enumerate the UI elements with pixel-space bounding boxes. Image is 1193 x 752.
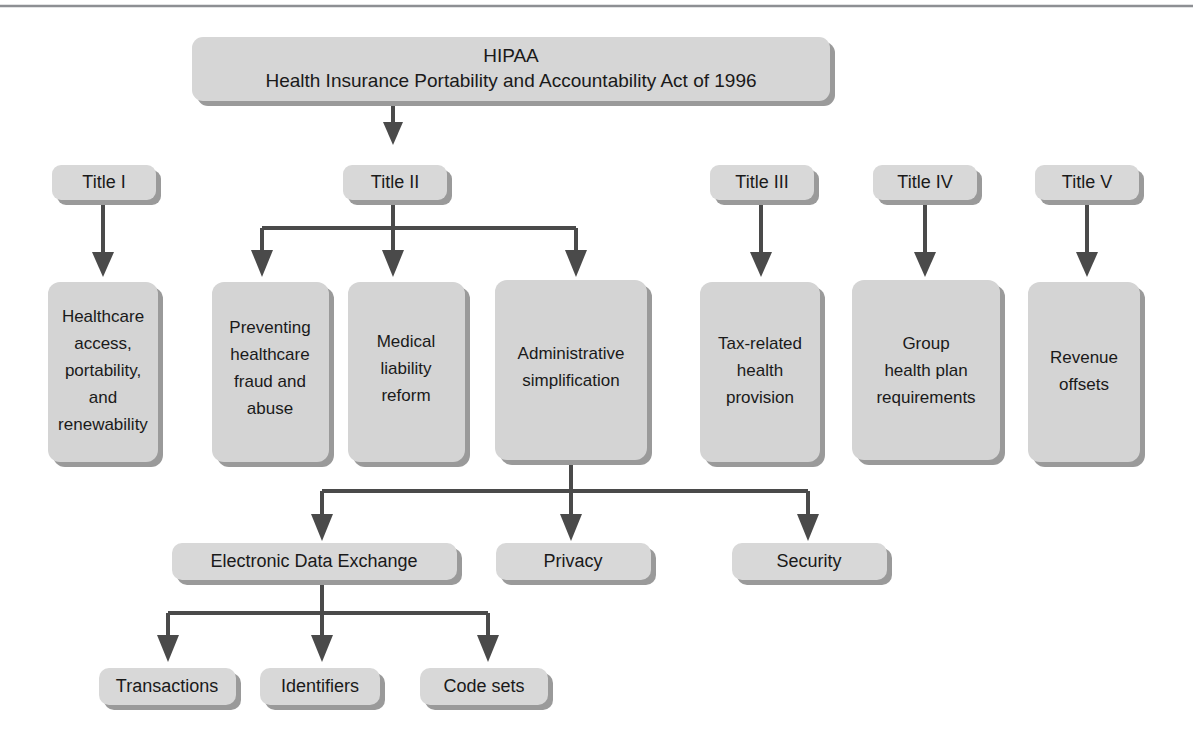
node-hipaa[interactable]: HIPAA Health Insurance Portability and A… [192, 37, 835, 106]
node-preventing-fraud-line-4: abuse [247, 399, 293, 418]
arrowhead-title2-child-1 [251, 250, 273, 277]
node-title-1[interactable]: Title I [52, 165, 161, 205]
node-tax-related-health-line-3: provision [726, 388, 794, 407]
node-title-4-label: Title IV [897, 172, 952, 192]
node-healthcare-access-line-4: and [89, 388, 117, 407]
arrowhead-admin-child-2 [560, 514, 582, 541]
node-code-sets[interactable]: Code sets [420, 668, 553, 710]
node-revenue-offsets[interactable]: Revenue offsets [1028, 282, 1145, 467]
node-group-health-plan[interactable]: Group health plan requirements [852, 280, 1005, 465]
node-tax-related-health-line-1: Tax-related [718, 334, 802, 353]
node-title-2[interactable]: Title II [343, 165, 452, 205]
node-security-label: Security [776, 551, 841, 571]
node-administrative-simplification-line-1: Administrative [518, 344, 625, 363]
arrowhead-ede-child-1 [157, 635, 179, 662]
node-medical-liability-line-1: Medical [377, 332, 436, 351]
node-tax-related-health-line-2: health [737, 361, 783, 380]
node-title-1-label: Title I [82, 172, 125, 192]
node-electronic-data-exchange-label: Electronic Data Exchange [210, 551, 417, 571]
node-privacy[interactable]: Privacy [496, 543, 656, 585]
node-administrative-simplification-line-2: simplification [522, 371, 619, 390]
node-medical-liability-line-3: reform [381, 386, 430, 405]
node-group-health-plan-line-1: Group [902, 334, 949, 353]
node-healthcare-access-line-1: Healthcare [62, 307, 144, 326]
arrowhead-title2-child-2 [382, 250, 404, 277]
node-revenue-offsets-line-1: Revenue [1050, 348, 1118, 367]
arrowhead-root-to-title2 [383, 122, 403, 145]
node-medical-liability[interactable]: Medical liability reform [348, 282, 470, 467]
arrowhead-admin-child-1 [311, 514, 333, 541]
node-hipaa-line1: HIPAA [483, 45, 539, 66]
arrowhead-title2-child-3 [565, 250, 587, 277]
arrowhead-ede-child-3 [477, 635, 499, 662]
arrowhead-title5 [1076, 252, 1098, 277]
hipaa-structure-diagram: HIPAA Health Insurance Portability and A… [0, 0, 1193, 752]
node-healthcare-access-line-3: portability, [65, 361, 141, 380]
node-administrative-simplification-box [495, 280, 647, 460]
node-healthcare-access-line-5: renewability [58, 415, 148, 434]
arrowhead-title4 [914, 252, 936, 277]
node-title-4[interactable]: Title IV [873, 165, 982, 205]
node-title-3-label: Title III [735, 172, 788, 192]
node-title-5-label: Title V [1062, 172, 1112, 192]
node-tax-related-health[interactable]: Tax-related health provision [700, 282, 825, 467]
node-administrative-simplification[interactable]: Administrative simplification [495, 280, 652, 465]
node-transactions-label: Transactions [116, 676, 218, 696]
node-electronic-data-exchange[interactable]: Electronic Data Exchange [172, 543, 462, 585]
node-medical-liability-line-2: liability [380, 359, 432, 378]
diagram-canvas: HIPAA Health Insurance Portability and A… [0, 0, 1193, 752]
node-title-2-label: Title II [371, 172, 419, 192]
node-preventing-fraud-line-1: Preventing [229, 318, 310, 337]
arrowhead-title3 [750, 252, 772, 277]
node-title-5[interactable]: Title V [1035, 165, 1144, 205]
arrowhead-title1 [92, 252, 114, 277]
node-code-sets-label: Code sets [443, 676, 524, 696]
node-group-health-plan-line-2: health plan [884, 361, 967, 380]
arrowhead-ede-child-2 [311, 635, 333, 662]
node-privacy-label: Privacy [543, 551, 602, 571]
arrowhead-admin-child-3 [797, 514, 819, 541]
node-preventing-fraud-line-3: fraud and [234, 372, 306, 391]
node-identifiers[interactable]: Identifiers [260, 668, 385, 710]
node-title-3[interactable]: Title III [710, 165, 819, 205]
node-hipaa-line2: Health Insurance Portability and Account… [265, 70, 756, 91]
node-preventing-fraud-line-2: healthcare [230, 345, 309, 364]
node-revenue-offsets-line-2: offsets [1059, 375, 1109, 394]
node-security[interactable]: Security [732, 543, 892, 585]
node-healthcare-access[interactable]: Healthcare access, portability, and rene… [48, 282, 163, 467]
node-transactions[interactable]: Transactions [99, 668, 241, 710]
node-group-health-plan-line-3: requirements [876, 388, 975, 407]
node-revenue-offsets-box [1028, 282, 1140, 462]
node-preventing-fraud[interactable]: Preventing healthcare fraud and abuse [212, 282, 334, 467]
node-healthcare-access-line-2: access, [74, 334, 132, 353]
node-identifiers-label: Identifiers [281, 676, 359, 696]
